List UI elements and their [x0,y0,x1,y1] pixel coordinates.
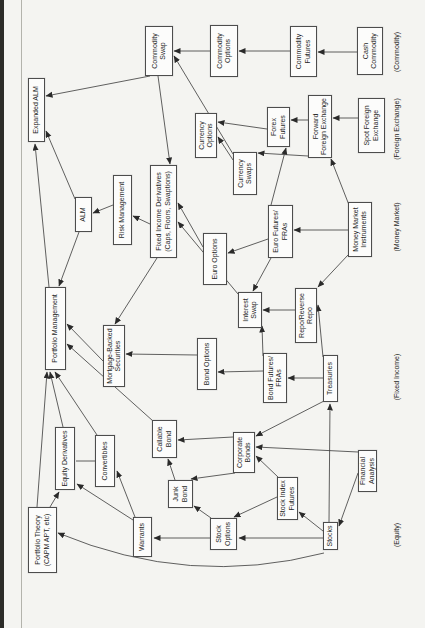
edge-portfolio_theory-to-equity_derivatives [50,492,59,507]
edge-euro_futures-to-euro_options [228,239,268,253]
edge-stocks-to-treasuries [329,404,330,522]
edge-stocks-to-stock_index_futures [299,512,323,531]
edge-alm-to-portfolio_management [59,232,79,286]
node-convertibles: Convertibles [95,435,115,487]
diagram-stage: Portfolio Theory (CAPM APT, etc)Equity D… [0,0,425,628]
node-money_market_instruments: Money Market Instruments [348,202,372,257]
edge-bond_futures-to-interest_swap [262,326,263,356]
edge-commodity_swap-to-fixed_income_derivatives [158,76,170,164]
node-euro_futures: Euro Futures/ FRAs [268,205,293,258]
edge-euro_futures-to-forex_futures [271,148,286,205]
edge-mortgage_backed-to-portfolio_management [67,324,103,361]
edge-portfolio_theory-to-portfolio_management [37,372,47,507]
node-equity_label: (Equity) [391,505,403,565]
node-callable_bond: Callable Bond [152,420,177,458]
node-commodity_label: (Commodity) [391,22,403,82]
edge-warrants-to-convertibles [117,471,135,517]
node-fx_label: (Foreign Exchange) [391,89,403,169]
node-equity_derivatives: Equity Derivatives [55,427,75,490]
edge-currency_swaps-to-currency_options [218,137,233,160]
node-portfolio_management: Portfolio Management [45,287,66,370]
edge-alm-to-expanded_alm [46,131,75,199]
edge-euro_futures-to-interest_swap [253,258,271,291]
node-stock_options: Stock Options [210,518,237,550]
edge-money_market_instruments-to-forward_fx [331,159,349,205]
node-treasuries: Treasuries [323,355,338,402]
node-expanded_alm: Expanded ALM [28,78,45,142]
node-currency_options: Currency Options [195,113,217,158]
edge-money_market_instruments-to-repo [318,255,348,287]
node-repo: Repo/Reverse Repo [295,288,317,343]
node-corporate_bonds: Corporate Bonds [233,432,255,473]
node-money_market_label: (Money Market) [391,197,403,257]
node-stock_index_futures: Stock Index Futures [277,477,298,520]
node-commodity_swap: Commodity Swap [145,26,173,76]
edge-treasuries-to-repo [318,305,323,357]
edge-financial_analysis-to-corporate_bonds [256,447,358,452]
edge-euro_options-to-fixed_income_derivatives [178,203,203,247]
edge-stock_index_futures-to-corporate_bonds [256,456,278,477]
node-portfolio_theory: Portfolio Theory (CAPM APT, etc) [28,507,57,573]
node-commodity_futures: Commodity Futures [290,26,317,77]
edge-corporate_bonds-to-callable_bond [178,437,233,440]
node-bond_options: Bond Options [197,338,217,390]
node-junk_bond: Junk Bond [168,480,193,508]
edge-bond_options-to-mortgage_backed [126,354,197,355]
edge-convertibles-to-portfolio_management [55,372,97,435]
edge-forex_futures-to-currency_options [218,122,267,129]
node-interest_swap: Interest Swap [238,292,262,328]
node-fixed_income_derivatives: Fixed Income Derivatives (Caps, Floors, … [150,165,177,258]
node-financial_analysis: Financial Analysis [358,450,377,492]
edge-commodity_swap-to-expanded_alm [46,76,150,96]
edge-portfolio_management-to-expanded_alm [35,144,49,287]
node-forward_fx: Forward Foreign Exchange [308,95,332,158]
edge-fixed_income_derivatives-to-risk_management [133,216,150,224]
node-forex_futures: Forex Futures [267,107,290,147]
edge-fixed_income_derivatives-to-mortgage_backed [115,258,157,324]
edge-forward_fx-to-currency_swaps [258,153,308,156]
node-stocks: Stocks [323,522,338,550]
edge-junk_bond-to-callable_bond [168,459,175,480]
node-spot_fx: Spot Foreign Exchange [358,98,385,153]
node-euro_options: Euro Options [203,233,227,285]
scanned-page: Portfolio Theory (CAPM APT, etc)Equity D… [0,0,425,628]
node-mortgage_backed: Mortgage-Backed Securities [103,325,125,387]
node-fixed_income_label: (Fixed Income) [391,347,403,407]
edge-risk_management-to-alm [93,205,113,213]
edge-financial_analysis-to-stocks [339,473,358,526]
edge-stock_options-to-junk_bond [194,506,211,518]
edge-corporate_bonds-to-junk_bond [191,473,235,479]
edge-equity_derivatives-to-portfolio_management [50,372,63,427]
edge-treasuries-to-corporate_bonds [256,401,324,436]
node-bond_futures: Bond Futures/ FRAs [263,353,287,403]
node-commodity_options: Commodity Options [210,25,238,77]
node-warrants: Warrants [133,517,152,557]
node-currency_swaps: Currency Swaps [233,152,257,195]
node-alm: ALM [75,197,92,232]
edge-stock_index_futures-to-stock_options [234,497,277,517]
edge-bond_futures-to-bond_options [218,371,263,372]
node-cash_commodity: Cash Commodity [357,27,383,75]
node-risk_management: Risk Management [113,175,132,245]
